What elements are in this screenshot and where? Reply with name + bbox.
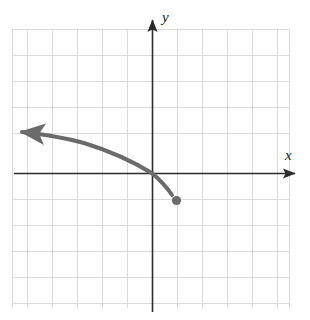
- graph-figure: x y: [0, 0, 310, 320]
- curve-endpoint-dot: [172, 196, 181, 205]
- coordinate-plane: [0, 0, 310, 320]
- y-axis-label: y: [162, 10, 169, 25]
- grid-lines-horizontal: [12, 30, 290, 304]
- x-axis-label: x: [285, 148, 292, 163]
- curve-path: [22, 132, 172, 195]
- grid-lines-vertical: [13, 29, 290, 308]
